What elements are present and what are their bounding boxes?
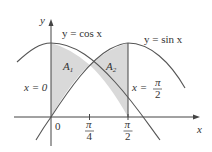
x-axis-label: x xyxy=(196,123,202,135)
y-axis-arrow-icon xyxy=(49,19,54,26)
tick-label-pi-over-2-num: π xyxy=(125,118,131,130)
origin-label: 0 xyxy=(55,120,61,132)
tick-label-pi-over-4-den: 4 xyxy=(87,130,93,142)
tick-label-pi-over-4-num: π xyxy=(86,118,92,130)
line-x-pi-over-2-den: 2 xyxy=(155,88,161,100)
line-x-0-label: x = 0 xyxy=(23,81,48,93)
line-x-pi-over-2-label: x = xyxy=(131,81,147,93)
x-axis-arrow-icon xyxy=(193,115,200,120)
tick-label-pi-over-2-den: 2 xyxy=(125,130,131,142)
line-x-pi-over-2-num: π xyxy=(155,76,161,88)
area-between-curves-diagram: y x 0 y = cos x y = sin x A1 A2 x = 0 x … xyxy=(0,0,212,152)
region-a2 xyxy=(90,43,129,117)
y-axis-label: y xyxy=(39,14,45,26)
sin-curve-label: y = sin x xyxy=(144,33,183,45)
cos-curve-label: y = cos x xyxy=(62,27,103,39)
